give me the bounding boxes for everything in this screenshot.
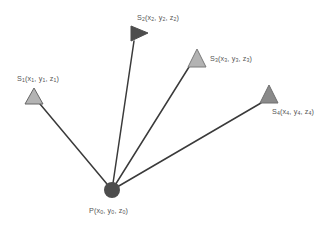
station-marker-s3 (188, 49, 206, 67)
station-marker-s4 (260, 85, 278, 103)
point-label-p: P(x0, y0, z0) (89, 207, 128, 214)
station-marker-s2 (131, 26, 148, 41)
diagram-canvas: S1(x1, y1, z1) S2(x2, y2, z2) S3(x3, y3,… (0, 0, 336, 233)
station-label-s4: S4(x4, y4, z4) (272, 108, 314, 115)
edge-p-s3 (112, 67, 189, 190)
station-label-s2: S2(x2, y2, z2) (137, 14, 179, 21)
edge-p-s1 (40, 104, 112, 190)
diagram-graphics (0, 0, 336, 233)
station-label-s1: S1(x1, y1, z1) (17, 75, 59, 82)
edge-group (40, 41, 261, 190)
station-marker-s1 (25, 88, 43, 104)
edge-p-s2 (112, 41, 134, 190)
edge-p-s4 (112, 103, 261, 190)
point-marker-p (104, 182, 120, 198)
station-label-s3: S3(x3, y3, z3) (210, 55, 252, 62)
station-marker-group (25, 26, 278, 104)
